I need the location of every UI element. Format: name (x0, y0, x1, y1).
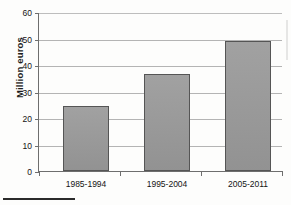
x-axis-label-3: 2005-2011 (228, 179, 268, 189)
x-axis-label-1: 1985-1994 (66, 179, 107, 189)
x-tick-start (39, 171, 40, 176)
x-tick-end (282, 171, 283, 176)
scan-speck (286, 20, 288, 60)
x-axis-label-2: 1995-2004 (147, 179, 188, 189)
y-axis-label-10: 10 (23, 141, 32, 151)
y-tick-40 (35, 66, 39, 67)
y-axis-label-40: 40 (23, 61, 32, 71)
y-tick-10 (35, 146, 39, 147)
y-tick-60 (35, 13, 39, 14)
y-axis-label-0: 0 (27, 167, 32, 177)
chart-page: Million euros 60 50 40 30 20 10 0 1985-1… (0, 0, 291, 205)
x-tick-1 (120, 171, 121, 176)
plot-area: 60 50 40 30 20 10 0 1985-1994 1995-2004 … (38, 13, 282, 172)
bar-1985-1994 (63, 106, 109, 171)
y-axis-label-20: 20 (23, 114, 32, 124)
y-tick-50 (35, 40, 39, 41)
gridline-60 (39, 13, 282, 14)
page-edge-rule (3, 198, 75, 200)
y-axis-label-50: 50 (23, 35, 32, 45)
y-tick-30 (35, 93, 39, 94)
y-axis-label-30: 30 (23, 88, 32, 98)
y-tick-20 (35, 119, 39, 120)
x-tick-2 (201, 171, 202, 176)
bar-2005-2011 (225, 41, 271, 171)
y-axis-label-60: 60 (23, 8, 32, 18)
bar-1995-2004 (144, 74, 190, 171)
